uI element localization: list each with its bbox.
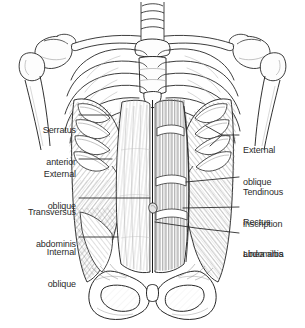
label-external-oblique-right-line1: External: [243, 145, 305, 156]
label-internal-oblique: Internal oblique: [14, 226, 76, 300]
label-internal-oblique-line1: Internal: [14, 247, 76, 258]
label-serratus-anterior-line1: Serratus: [14, 125, 76, 136]
label-external-oblique-left-line1: External: [14, 169, 76, 180]
label-internal-oblique-line2: oblique: [14, 279, 76, 290]
umbilicus: [149, 203, 157, 213]
label-rectus-abdominis-line1: Rectus: [243, 217, 305, 228]
label-linea-alba: Linea alba: [243, 228, 305, 270]
label-transversus-abdominis-line1: Transversus: [4, 207, 76, 218]
vertebral-column: [141, 2, 164, 40]
label-linea-alba-line1: Linea alba: [243, 249, 305, 260]
pubic-symphysis: [147, 285, 159, 302]
